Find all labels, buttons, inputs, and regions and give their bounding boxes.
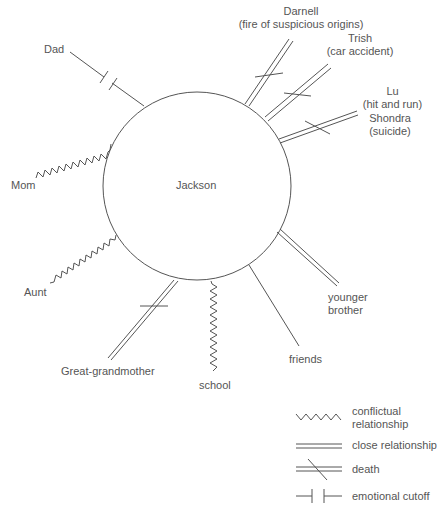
trish-death-connector [265,64,331,121]
label-lu: Lu (hit and run) [355,85,430,111]
trish-note: (car accident) [325,45,395,58]
mom-conflict-connector [36,144,111,178]
label-darnell: Darnell (fire of suspicious origins) [231,5,371,31]
aunt-conflict-connector [50,235,116,283]
dad-cutoff-connector [70,52,144,106]
legend-conflict-symbol [296,414,341,420]
younger-brother-close-connector [277,229,339,286]
darnell-note: (fire of suspicious origins) [231,18,371,31]
label-friends: friends [289,353,322,366]
trish-name: Trish [325,32,395,45]
lu-name: Lu [355,85,430,98]
label-mom: Mom [11,179,35,192]
legend-death-label: death [352,463,380,476]
friends-connector [249,265,299,346]
legend-cutoff-symbol [296,489,342,503]
darnell-death-connector [245,39,293,106]
younger-brother-line1: younger [328,291,368,304]
shondra-name: Shondra [355,112,425,125]
darnell-name: Darnell [231,5,371,18]
lu-note: (hit and run) [355,98,430,111]
label-trish: Trish (car accident) [325,32,395,58]
center-label: Jackson [176,179,216,192]
shondra-death-connector [279,111,358,143]
label-school: school [199,379,231,392]
legend-close-symbol [296,444,342,448]
label-dad: Dad [44,43,64,56]
great-grandmother-death-connector [108,280,178,360]
legend-conflict-line1: conflictual [352,405,408,418]
legend-conflict-label: conflictual relationship [352,405,408,431]
label-shondra: Shondra (suicide) [355,112,425,138]
legend-close-label: close relationship [352,439,437,452]
label-aunt: Aunt [24,286,47,299]
school-conflict-connector [210,281,217,371]
legend-cutoff-label: emotional cutoff [352,490,429,503]
legend-conflict-line2: relationship [352,418,408,431]
label-younger-brother: younger brother [328,291,368,317]
legend-death-symbol [296,459,342,480]
younger-brother-line2: brother [328,304,368,317]
label-great-grandmother: Great-grandmother [61,365,155,378]
shondra-note: (suicide) [355,125,425,138]
